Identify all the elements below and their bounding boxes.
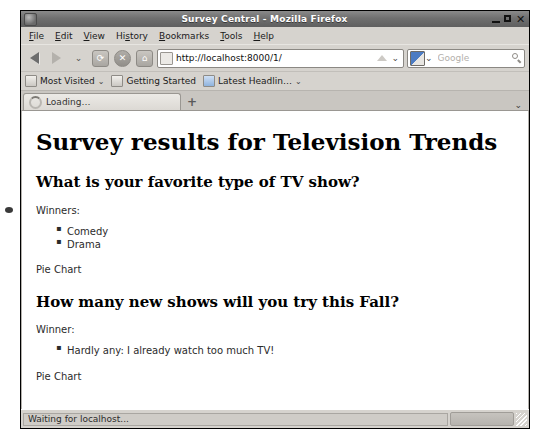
- tab-list-chevron-icon[interactable]: ⌄: [514, 100, 529, 110]
- winners-label-2: Winner:: [36, 324, 514, 335]
- menu-bar: File Edit View History Bookmarks Tools H…: [21, 27, 529, 44]
- stop-icon: ✕: [114, 50, 131, 67]
- chevron-down-icon: ⌄: [75, 54, 83, 63]
- back-arrow-icon: [30, 52, 39, 64]
- firefox-icon: [111, 75, 123, 87]
- pie-chart-link-1[interactable]: Pie Chart: [36, 264, 514, 275]
- resize-grip-icon[interactable]: [516, 413, 527, 426]
- question-heading-1: What is your favorite type of TV show?: [36, 174, 514, 191]
- search-bar[interactable]: ⌄: [407, 49, 525, 68]
- list-item: Drama: [67, 238, 514, 251]
- menu-bookmarks[interactable]: Bookmarks: [154, 30, 214, 42]
- url-dropdown-icon[interactable]: ⌄: [391, 53, 399, 63]
- status-text-container: Waiting for localhost...: [23, 413, 448, 426]
- stop-button[interactable]: ✕: [113, 49, 132, 68]
- menu-history[interactable]: History: [111, 30, 153, 42]
- bookmarks-toolbar: Most Visited ⌄ Getting Started Latest He…: [21, 71, 529, 90]
- history-dropdown-button[interactable]: ⌄: [69, 49, 88, 68]
- bookmark-label: Latest Headlin…: [218, 76, 292, 86]
- list-item: Comedy: [67, 225, 514, 238]
- go-arrow-icon[interactable]: [377, 55, 387, 61]
- firefox-icon: [24, 13, 37, 26]
- menu-edit[interactable]: Edit: [50, 30, 77, 42]
- tab-loading[interactable]: Loading…: [23, 93, 181, 110]
- close-icon[interactable]: ✕: [516, 15, 525, 24]
- browser-chrome: File Edit View History Bookmarks Tools H…: [21, 27, 529, 110]
- menu-tools[interactable]: Tools: [215, 30, 247, 42]
- list-item: Hardly any: I already watch too much TV!: [67, 344, 514, 357]
- menu-view[interactable]: View: [79, 30, 110, 42]
- folder-icon: [25, 75, 37, 87]
- feed-icon: [203, 75, 215, 87]
- loading-spinner-icon: [29, 96, 42, 109]
- forward-button[interactable]: [47, 49, 66, 68]
- winners-list-2: Hardly any: I already watch too much TV!: [36, 344, 514, 357]
- chevron-down-icon: ⌄: [98, 77, 105, 86]
- bookmark-getting-started[interactable]: Getting Started: [111, 75, 196, 87]
- google-engine-icon[interactable]: [410, 51, 425, 66]
- bookmark-label: Most Visited: [40, 76, 95, 86]
- tab-strip: Loading… + ⌄: [21, 90, 529, 110]
- status-bar: Waiting for localhost...: [21, 409, 529, 428]
- page-title: Survey results for Television Trends: [36, 129, 514, 155]
- browser-window: Survey Central - Mozilla Firefox ✕ File …: [20, 10, 530, 429]
- menu-help[interactable]: Help: [248, 30, 279, 42]
- cursor-pointer: [5, 207, 13, 213]
- navigation-toolbar: ⌄ ⟳ ✕ ⌂ ⌄ ⌄: [21, 44, 529, 71]
- question-heading-2: How many new shows will you try this Fal…: [36, 294, 514, 311]
- address-bar[interactable]: ⌄: [157, 49, 404, 68]
- back-button[interactable]: [25, 49, 44, 68]
- page-favicon-icon: [160, 52, 173, 65]
- search-engine-dropdown-icon[interactable]: ⌄: [425, 53, 433, 63]
- home-icon: ⌂: [136, 50, 153, 67]
- minimize-icon[interactable]: [492, 15, 501, 24]
- winners-list-1: Comedy Drama: [36, 225, 514, 251]
- forward-arrow-icon: [52, 52, 61, 64]
- window-controls: ✕: [492, 15, 527, 24]
- maximize-icon[interactable]: [504, 15, 513, 24]
- menu-file[interactable]: File: [24, 30, 49, 42]
- reload-button[interactable]: ⟳: [91, 49, 110, 68]
- bookmark-most-visited[interactable]: Most Visited ⌄: [25, 75, 104, 87]
- new-tab-button[interactable]: +: [181, 93, 203, 110]
- screen: Survey Central - Mozilla Firefox ✕ File …: [0, 0, 545, 439]
- url-input[interactable]: [176, 52, 377, 64]
- reload-icon: ⟳: [92, 50, 109, 67]
- title-bar[interactable]: Survey Central - Mozilla Firefox ✕: [21, 11, 529, 27]
- page-content: Survey results for Television Trends Wha…: [21, 110, 529, 409]
- winners-label-1: Winners:: [36, 205, 514, 216]
- tab-label: Loading…: [46, 97, 91, 107]
- status-text: Waiting for localhost...: [28, 414, 129, 424]
- home-button[interactable]: ⌂: [135, 49, 154, 68]
- search-icon[interactable]: [512, 53, 522, 63]
- chevron-down-icon: ⌄: [295, 77, 302, 86]
- progress-bar: [450, 412, 514, 426]
- window-title: Survey Central - Mozilla Firefox: [37, 14, 492, 24]
- pie-chart-link-2[interactable]: Pie Chart: [36, 371, 514, 382]
- bookmark-label: Getting Started: [126, 76, 196, 86]
- search-input[interactable]: [435, 52, 512, 64]
- bookmark-latest-headlines[interactable]: Latest Headlin… ⌄: [203, 75, 302, 87]
